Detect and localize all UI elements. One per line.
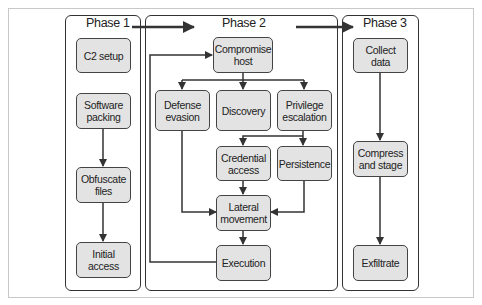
node-exfiltrate: Exfiltrate	[353, 245, 408, 281]
node-persistence: Persistence	[277, 146, 332, 181]
node-compress-and-stage: Compress and stage	[353, 141, 408, 177]
node-lateral-movement: Lateral movement	[216, 195, 271, 231]
node-initial-access: Initial access	[76, 242, 131, 278]
node-execution: Execution	[216, 245, 271, 281]
node-compromise-host: Compromise host	[213, 37, 273, 73]
node-collect-data: Collect data	[353, 38, 408, 73]
node-software-packing: Software packing	[76, 93, 131, 129]
phase-3-title: Phase 3	[363, 16, 407, 30]
node-credential-access: Credential access	[216, 146, 271, 181]
node-c2-setup: C2 setup	[76, 38, 131, 73]
node-discovery: Discovery	[216, 90, 271, 131]
phase-1-title: Phase 1	[86, 16, 130, 30]
node-defense-evasion: Defense evasion	[155, 90, 210, 131]
node-obfuscate-files: Obfuscate files	[76, 167, 131, 203]
node-privilege-escalation: Privilege escalation	[277, 90, 332, 131]
phase-2-title: Phase 2	[222, 16, 266, 30]
